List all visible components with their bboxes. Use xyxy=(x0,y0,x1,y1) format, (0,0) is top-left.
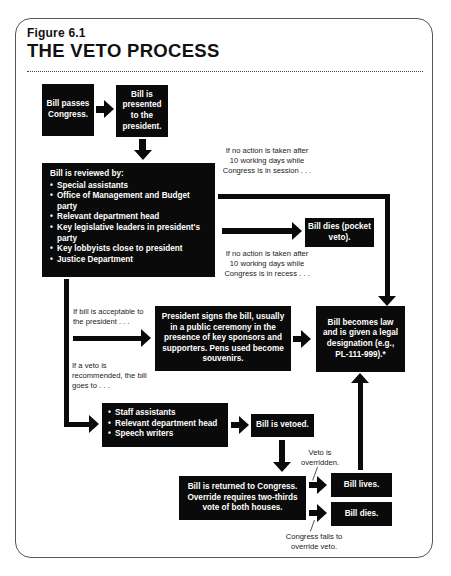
node-returned-text: Bill is returned to Congress. Override r… xyxy=(183,482,302,514)
node-veto-advisors: Staff assistants Relevant department hea… xyxy=(102,403,228,447)
label-acceptable: If bill is acceptable to the president .… xyxy=(73,307,153,327)
node-presented-text: Bill is presented to the president. xyxy=(119,90,165,132)
node-president-signs-text: President signs the bill, usually in a p… xyxy=(161,312,285,365)
review-item: Key lobbyists close to president xyxy=(50,244,207,255)
arrow-right-icon xyxy=(317,504,327,522)
node-becomes-law-text: Bill becomes law and is given a legal de… xyxy=(321,318,400,360)
arrow-right-icon xyxy=(239,416,249,434)
review-item: Key legislative leaders in president's p… xyxy=(50,223,207,244)
label-veto-recommended: If a veto is recommended, the bill goes … xyxy=(72,361,152,392)
advisor-list: Staff assistants Relevant department hea… xyxy=(108,408,217,440)
arrow-down-icon xyxy=(139,139,146,150)
dotted-divider xyxy=(27,71,423,72)
node-pocket-veto: Bill dies (pocket veto). xyxy=(305,218,374,247)
arrow-down-icon xyxy=(273,462,291,472)
arrow-right-icon xyxy=(141,329,151,347)
connector-lives-up xyxy=(358,382,363,470)
node-bill-passes: Bill passes Congress. xyxy=(42,84,94,136)
arrow-right-icon xyxy=(292,222,302,240)
review-heading: Bill is reviewed by: xyxy=(50,169,124,180)
node-president-signs: President signs the bill, usually in a p… xyxy=(155,306,291,371)
arrow-right-icon xyxy=(104,100,114,118)
node-bill-lives: Bill lives. xyxy=(331,473,392,497)
node-returned: Bill is returned to Congress. Override r… xyxy=(179,476,306,520)
figure-title: THE VETO PROCESS xyxy=(27,40,220,62)
review-list: Special assistants Office of Management … xyxy=(50,181,207,266)
label-overridden: Veto is overridden. xyxy=(296,448,344,468)
connector-trunk xyxy=(64,279,69,427)
review-item: Justice Department xyxy=(50,255,207,266)
node-bill-lives-text: Bill lives. xyxy=(344,480,380,491)
node-bill-dies-text: Bill dies. xyxy=(345,509,379,520)
connector-session-vertical xyxy=(385,194,390,300)
review-item: Relevant department head xyxy=(50,212,207,223)
node-vetoed: Bill is vetoed. xyxy=(251,414,314,437)
node-bill-dies: Bill dies. xyxy=(331,502,392,526)
arrow-up-icon xyxy=(351,373,369,383)
review-item: Special assistants xyxy=(50,181,207,192)
connector-to-advisors xyxy=(64,422,90,427)
node-presented: Bill is presented to the president. xyxy=(116,85,168,137)
label-in-recess: If no action is taken after 10 working d… xyxy=(222,249,312,280)
connector-recess xyxy=(222,228,292,234)
label-fails-override: Congress fails to override veto. xyxy=(280,532,348,552)
review-item: Office of Management and Budget party xyxy=(50,191,207,212)
node-bill-passes-text: Bill passes Congress. xyxy=(45,99,91,120)
arrow-right-icon xyxy=(301,330,311,348)
arrow-down-icon xyxy=(378,296,396,306)
arrow-right-icon xyxy=(89,415,99,433)
node-pocket-veto-text: Bill dies (pocket veto). xyxy=(308,222,371,243)
connector-acceptable xyxy=(73,336,142,341)
label-in-session: If no action is taken after 10 working d… xyxy=(222,146,312,177)
advisor-item: Relevant department head xyxy=(108,419,217,430)
node-becomes-law: Bill becomes law and is given a legal de… xyxy=(316,306,405,372)
arrow-right-icon xyxy=(317,476,327,494)
arrow-down-icon xyxy=(134,150,152,160)
node-vetoed-text: Bill is vetoed. xyxy=(256,420,309,431)
figure-label: Figure 6.1 xyxy=(27,26,86,40)
connector-session-horizontal xyxy=(218,194,390,199)
advisor-item: Staff assistants xyxy=(108,408,217,419)
arrow-down-icon xyxy=(279,440,285,462)
node-review: Bill is reviewed by: Special assistants … xyxy=(42,163,215,277)
advisor-item: Speech writers xyxy=(108,429,217,440)
